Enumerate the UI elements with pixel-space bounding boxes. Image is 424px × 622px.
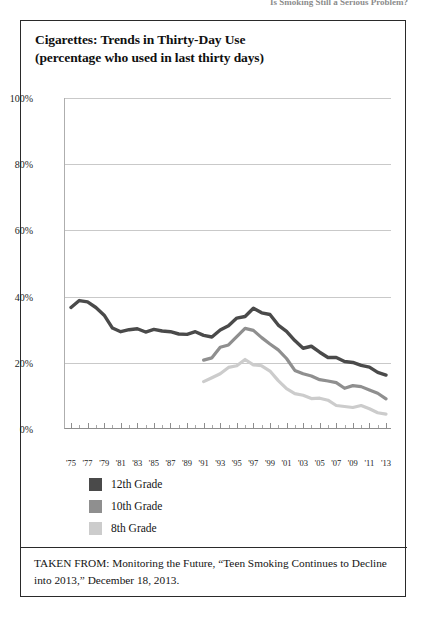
x-axis-tick-label: '81 [116, 458, 126, 468]
x-axis-tick-label: '87 [165, 458, 175, 468]
x-axis-tick-label: '91 [199, 458, 209, 468]
plot-area: '75'77'79'81'83'85'87'89'91'93'95'97'99'… [64, 98, 391, 429]
y-axis-tick-label: 0% [0, 424, 33, 435]
x-axis-tick-label: '77 [83, 458, 93, 468]
x-axis-tick-label: '11 [365, 458, 375, 468]
legend-swatch-icon [89, 522, 102, 535]
running-head: Is Smoking Still a Serious Problem? [270, 0, 408, 7]
figure-title: Cigarettes: Trends in Thirty-Day Use (pe… [35, 31, 385, 67]
series-line-12th-grade [71, 301, 386, 375]
x-axis-tick-label: '13 [381, 458, 391, 468]
legend-item: 10th Grade [89, 495, 289, 517]
figure-title-line-2: (percentage who used in last thirty days… [35, 49, 385, 67]
x-axis-tick-label: '03 [298, 458, 308, 468]
y-axis-tick-label: 80% [0, 159, 33, 170]
x-axis-tick-label: '05 [315, 458, 325, 468]
figure-frame: Cigarettes: Trends in Thirty-Day Use (pe… [20, 20, 406, 597]
x-axis-tick-label: '83 [132, 458, 142, 468]
source-divider [21, 547, 407, 548]
x-axis-tick-label: '89 [182, 458, 192, 468]
x-axis-tick-label: '01 [281, 458, 291, 468]
y-axis-tick-label: 60% [0, 225, 33, 236]
legend-label: 8th Grade [111, 522, 157, 534]
chart-area: 100%80%60%40%20%0% '75'77'79'81'83'85'87… [21, 73, 407, 463]
x-axis-tick-label: '79 [99, 458, 109, 468]
x-axis-tick-label: '93 [215, 458, 225, 468]
legend-item: 8th Grade [89, 517, 289, 539]
x-axis-tick-label: '85 [149, 458, 159, 468]
legend-label: 12th Grade [111, 478, 162, 490]
series-lines [65, 98, 392, 429]
source-note: TAKEN FROM: Monitoring the Future, “Teen… [34, 555, 390, 589]
page-header: Is Smoking Still a Serious Problem? [0, 0, 424, 14]
y-axis-tick-label: 20% [0, 357, 33, 368]
x-axis-tick-label: '09 [348, 458, 358, 468]
legend-swatch-icon [89, 478, 102, 491]
legend-label: 10th Grade [111, 500, 162, 512]
legend-item: 12th Grade [89, 473, 289, 495]
legend-swatch-icon [89, 500, 102, 513]
x-axis-tick-label: '99 [265, 458, 275, 468]
x-axis-tick-label: '75 [66, 458, 76, 468]
y-axis-tick-label: 100% [0, 93, 33, 104]
x-axis-tick-label: '07 [331, 458, 341, 468]
figure-title-line-1: Cigarettes: Trends in Thirty-Day Use [35, 32, 245, 47]
x-axis-tick-label: '95 [232, 458, 242, 468]
x-axis-tick-label: '97 [248, 458, 258, 468]
y-axis-tick-label: 40% [0, 291, 33, 302]
chart-legend: 12th Grade10th Grade8th Grade [89, 473, 289, 539]
